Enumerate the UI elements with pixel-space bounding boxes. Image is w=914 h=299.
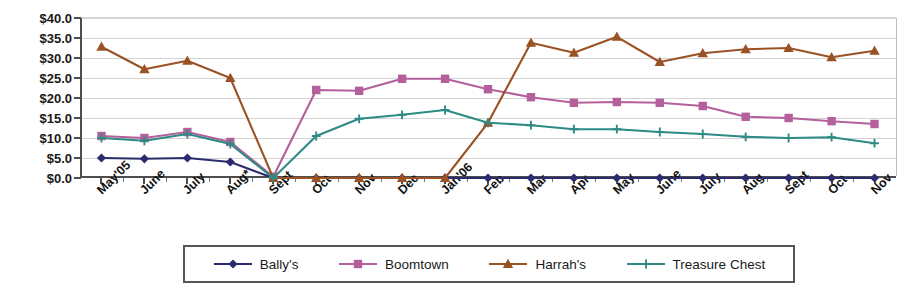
x-axis-minor-tick: [166, 178, 167, 182]
legend-item-boomtown[interactable]: Boomtown: [338, 257, 449, 272]
legend-label: Treasure Chest: [673, 257, 766, 272]
chart-legend: Bally'sBoomtownHarrah'sTreasure Chest: [183, 245, 795, 283]
x-axis-minor-tick: [595, 178, 596, 182]
y-axis-tick-label: $40.0: [0, 12, 72, 25]
y-axis-tick-label: $10.0: [0, 132, 72, 145]
plot-area: [80, 18, 896, 178]
x-axis-minor-tick: [638, 178, 639, 182]
x-axis-minor-tick: [552, 178, 553, 182]
legend-label: Bally's: [260, 257, 299, 272]
y-axis-tick-label: $25.0: [0, 72, 72, 85]
gridline: [82, 58, 896, 59]
legend-item-bally-s[interactable]: Bally's: [213, 257, 299, 272]
legend-item-harrah-s[interactable]: Harrah's: [488, 257, 586, 272]
chart-container: $40.0$35.0$30.0$25.0$20.0$15.0$10.0$5.0$…: [0, 0, 914, 299]
data-point-marker: [641, 260, 650, 269]
y-axis-tick-label: $0.0: [0, 172, 72, 185]
y-axis-tick-label: $30.0: [0, 52, 72, 65]
gridline: [82, 158, 896, 159]
gridline: [82, 98, 896, 99]
legend-label: Harrah's: [535, 257, 586, 272]
plus-marker-icon: [626, 257, 666, 271]
x-axis-minor-tick: [123, 178, 124, 182]
x-axis-minor-tick: [724, 178, 725, 182]
x-axis-minor-tick: [252, 178, 253, 182]
plot-right-border: [896, 18, 897, 176]
y-axis-tick-label: $5.0: [0, 152, 72, 165]
gridline: [82, 78, 896, 79]
data-point-marker: [228, 259, 237, 268]
gridline: [82, 18, 896, 19]
data-point-marker: [354, 260, 362, 268]
triangle-marker-icon: [488, 257, 528, 271]
y-axis-tick-label: $15.0: [0, 112, 72, 125]
x-axis-minor-tick: [295, 178, 296, 182]
square-marker-icon: [338, 257, 378, 271]
x-axis-minor-tick: [509, 178, 510, 182]
legend-item-treasure-chest[interactable]: Treasure Chest: [626, 257, 766, 272]
gridline: [82, 118, 896, 119]
gridline: [82, 138, 896, 139]
x-axis-minor-tick: [381, 178, 382, 182]
diamond-marker-icon: [213, 257, 253, 271]
x-axis-minor-tick: [853, 178, 854, 182]
x-axis-minor-tick: [424, 178, 425, 182]
legend-label: Boomtown: [385, 257, 449, 272]
x-axis-minor-tick: [338, 178, 339, 182]
x-axis-minor-tick: [209, 178, 210, 182]
x-axis-minor-tick: [767, 178, 768, 182]
gridline: [82, 38, 896, 39]
y-axis-tick-label: $35.0: [0, 32, 72, 45]
y-axis-tick-label: $20.0: [0, 92, 72, 105]
